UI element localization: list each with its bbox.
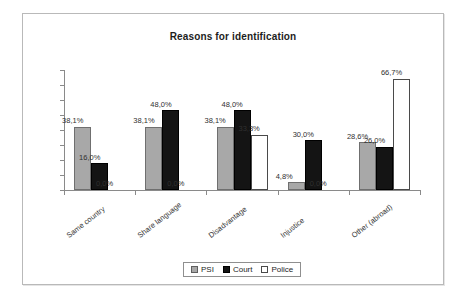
bar-value-label: 4,8% [276, 173, 293, 181]
bar-value-label: 33,3% [239, 125, 260, 133]
y-axis [64, 70, 65, 190]
legend-swatch-court-icon [223, 266, 230, 273]
y-axis-tick [60, 130, 64, 131]
bar-court-1 [162, 110, 179, 190]
category-label-1: Share language [137, 201, 183, 240]
bar-value-label: 66,7% [381, 69, 402, 77]
bar-value-label: 38,1% [205, 117, 226, 125]
bar-psi-4 [359, 142, 376, 190]
legend-swatch-psi-icon [191, 266, 198, 273]
category-label-2: Disadvantage [208, 205, 249, 239]
legend-label: Police [271, 265, 293, 274]
y-axis-tick [60, 145, 64, 146]
bar-value-label: 48,0% [150, 101, 171, 109]
x-axis-tick [206, 190, 207, 195]
legend-label: Court [233, 265, 253, 274]
legend-item-court[interactable]: Court [223, 265, 253, 274]
bar-psi-3 [288, 182, 305, 190]
x-axis-tick [420, 190, 421, 195]
legend-item-police[interactable]: Police [261, 265, 293, 274]
x-axis [64, 190, 420, 191]
bar-value-label: 0,0% [167, 180, 184, 188]
category-label-4: Other (abroad) [350, 203, 393, 239]
bar-value-label: 38,1% [62, 117, 83, 125]
chart-title: Reasons for identification [23, 31, 443, 42]
y-axis-tick [60, 160, 64, 161]
y-axis-tick [60, 175, 64, 176]
chart-frame: Reasons for identification 38,1%16,0%0,0… [22, 13, 444, 285]
category-label-0: Same country [65, 205, 106, 239]
category-label-3: Injustice [279, 217, 305, 240]
bar-group: 38,1%48,0%0,0% [145, 70, 196, 190]
legend-label: PSI [201, 265, 214, 274]
y-axis-tick [60, 85, 64, 86]
bar-court-2 [234, 110, 251, 190]
y-axis-tick [60, 70, 64, 71]
x-axis-tick [349, 190, 350, 195]
plot-area: 38,1%16,0%0,0%38,1%48,0%0,0%38,1%48,0%33… [64, 70, 420, 190]
bar-psi-1 [145, 127, 162, 191]
bar-value-label: 38,1% [133, 117, 154, 125]
bar-police-2 [251, 135, 268, 191]
x-axis-tick [64, 190, 65, 195]
bar-police-4 [393, 79, 410, 190]
bar-value-label: 48,0% [222, 101, 243, 109]
legend-item-psi[interactable]: PSI [191, 265, 214, 274]
legend-swatch-police-icon [261, 266, 268, 273]
bar-value-label: 0,0% [96, 180, 113, 188]
bar-value-label: 0,0% [310, 180, 327, 188]
x-axis-tick [135, 190, 136, 195]
x-axis-tick [278, 190, 279, 195]
chart-legend: PSICourtPolice [183, 262, 301, 277]
bar-group: 38,1%16,0%0,0% [74, 70, 125, 190]
bar-group: 38,1%48,0%33,3% [217, 70, 268, 190]
bar-value-label: 26,0% [364, 137, 385, 145]
bar-group: 28,6%26,0%66,7% [359, 70, 410, 190]
bar-psi-2 [217, 127, 234, 191]
bar-value-label: 30,0% [293, 131, 314, 139]
bar-value-label: 16,0% [79, 154, 100, 162]
bar-group: 4,8%30,0%0,0% [288, 70, 339, 190]
bar-court-4 [376, 147, 393, 190]
y-axis-tick [60, 100, 64, 101]
